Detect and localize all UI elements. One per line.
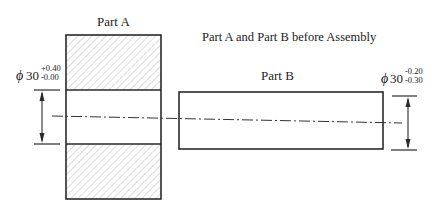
arrow-down-icon [40,133,45,143]
arrow-up-icon [40,91,45,101]
arrow-up-icon [406,97,411,107]
part-a-label: Part A [97,14,130,29]
part-b-label: Part B [261,68,294,83]
svg-text:ϕ: ϕ [381,71,388,86]
diagram-title: Part A and Part B before Assembly [202,30,377,44]
part-b-tolerance: ϕ 30 -0.20 -0.30 [381,66,423,86]
nominal-size: 30 [26,68,39,83]
centerline [52,116,402,123]
diameter-symbol-icon: ϕ [16,68,23,83]
part-a-tolerance: ϕ 30 +0.40 -0.00 [16,63,61,83]
arrow-down-icon [406,139,411,149]
part-a-upper-section [66,35,161,90]
svg-text:ϕ: ϕ [16,68,23,83]
lower-deviation: -0.00 [41,72,59,82]
assembly-diagram: Part A Part A and Part B before Assembly… [0,0,438,214]
diameter-symbol-icon: ϕ [381,71,388,86]
part-a-dimension [34,90,60,144]
lower-deviation: -0.30 [405,75,423,85]
part-a-lower-section [66,144,161,199]
nominal-size: 30 [390,71,403,86]
